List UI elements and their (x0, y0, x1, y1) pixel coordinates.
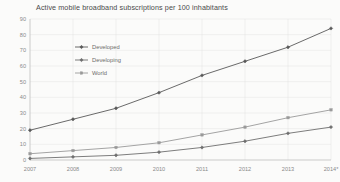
data-point-marker (243, 60, 246, 63)
data-point-marker (114, 107, 117, 110)
data-point-marker (329, 27, 332, 30)
x-axis-tick-label: 2009 (110, 166, 122, 172)
y-axis-tick-label: 90 (20, 16, 26, 22)
data-point-marker (72, 149, 74, 151)
legend-label-developing: Developing (92, 57, 121, 63)
data-point-marker (286, 132, 289, 135)
data-point-marker (28, 157, 31, 160)
y-axis-tick-label: 0 (23, 157, 26, 163)
series-developing (28, 125, 332, 160)
y-axis-tick-label: 70 (20, 47, 26, 53)
data-point-marker (80, 58, 83, 61)
series-line (30, 28, 331, 130)
chart-legend: DevelopedDevelopingWorld (75, 44, 121, 76)
data-point-marker (115, 146, 117, 148)
data-point-marker (329, 125, 332, 128)
data-point-marker (157, 91, 160, 94)
y-axis-tick-label: 40 (20, 94, 26, 100)
y-axis-tick-label: 50 (20, 79, 26, 85)
x-axis-tick-label: 2008 (67, 166, 79, 172)
x-axis-tick-label: 2007 (24, 166, 36, 172)
x-axis-tick-label: 2013 (282, 166, 294, 172)
y-axis-tick-label: 20 (20, 126, 26, 132)
data-point-marker (287, 117, 289, 119)
y-axis-tick-label: 80 (20, 32, 26, 38)
line-chart-plot: 0102030405060708090200720082009201020112… (0, 0, 340, 182)
series-world (29, 109, 332, 155)
legend-label-developed: Developed (92, 44, 120, 50)
data-point-marker (286, 46, 289, 49)
data-point-marker (28, 129, 31, 132)
series-line (30, 127, 331, 158)
data-point-marker (200, 74, 203, 77)
data-point-marker (157, 150, 160, 153)
y-axis-tick-label: 30 (20, 110, 26, 116)
x-axis-tick-label: 2014* (324, 166, 339, 172)
data-point-marker (71, 118, 74, 121)
data-point-marker (330, 109, 332, 111)
x-axis-tick-label: 2011 (196, 166, 208, 172)
data-point-marker (80, 45, 83, 48)
data-point-marker (114, 154, 117, 157)
data-point-marker (158, 142, 160, 144)
data-point-marker (80, 72, 82, 74)
series-developed (28, 27, 332, 132)
x-axis-tick-label: 2012 (239, 166, 251, 172)
data-point-marker (244, 126, 246, 128)
legend-label-world: World (92, 70, 107, 76)
chart-container: Active mobile broadband subscriptions pe… (0, 0, 340, 182)
data-point-marker (200, 146, 203, 149)
data-point-marker (201, 134, 203, 136)
data-point-marker (243, 140, 246, 143)
y-axis-tick-label: 10 (20, 141, 26, 147)
y-axis-tick-label: 60 (20, 63, 26, 69)
data-point-marker (29, 153, 31, 155)
x-axis-tick-label: 2010 (153, 166, 165, 172)
data-point-marker (71, 155, 74, 158)
series-line (30, 110, 331, 154)
